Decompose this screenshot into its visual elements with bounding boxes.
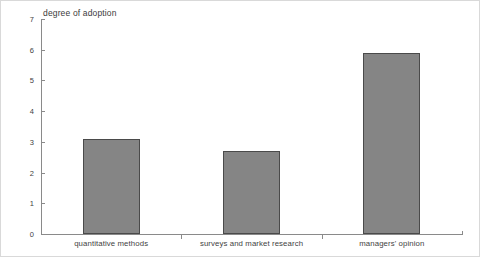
- y-tick-label: 3: [1, 137, 34, 146]
- bar: [363, 53, 420, 234]
- y-tick-mark: [41, 19, 45, 20]
- y-tick-label: 2: [1, 168, 34, 177]
- y-tick-mark: [41, 234, 45, 235]
- x-axis-end-tick: [462, 231, 463, 235]
- y-tick-label: 1: [1, 199, 34, 208]
- y-tick-mark: [41, 173, 45, 174]
- bar: [223, 151, 280, 234]
- y-tick-mark: [41, 111, 45, 112]
- x-category-label: surveys and market research: [200, 239, 303, 248]
- y-tick-label: 0: [1, 230, 34, 239]
- chart-title: degree of adoption: [43, 8, 117, 18]
- y-tick-mark: [41, 142, 45, 143]
- y-tick-label: 7: [1, 15, 34, 24]
- x-tick-mark: [322, 235, 323, 239]
- y-tick-mark: [41, 203, 45, 204]
- bar: [83, 139, 140, 234]
- y-tick-label: 6: [1, 45, 34, 54]
- x-tick-mark: [181, 235, 182, 239]
- y-tick-label: 5: [1, 76, 34, 85]
- y-tick-mark: [41, 50, 45, 51]
- x-axis-line: [41, 234, 462, 235]
- x-category-label: managers' opinion: [359, 239, 424, 248]
- x-category-label: quantitative methods: [74, 239, 148, 248]
- bar-chart-figure: degree of adoption 01234567 quantitative…: [0, 0, 480, 257]
- y-tick-mark: [41, 80, 45, 81]
- y-tick-label: 4: [1, 107, 34, 116]
